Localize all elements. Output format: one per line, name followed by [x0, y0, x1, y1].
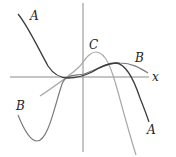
curve-c — [40, 52, 136, 155]
curve-b-label-left: B — [15, 99, 25, 113]
function-graph-diagram: A A B B C x — [0, 0, 176, 157]
curve-b-label-right: B — [134, 51, 144, 65]
x-axis-label: x — [152, 70, 159, 84]
curve-c-label: C — [89, 38, 98, 52]
curve-a-label-top: A — [29, 9, 39, 23]
curve-a-label-bottom: A — [146, 123, 156, 137]
